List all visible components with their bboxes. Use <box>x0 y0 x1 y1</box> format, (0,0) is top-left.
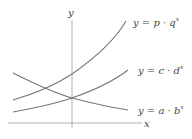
label-c-d: y = c · dx <box>137 63 184 76</box>
exponential-chart: y x y = p · qx y = c · dx y = a · bx <box>0 0 192 139</box>
label-p-q: y = p · qx <box>132 15 180 28</box>
y-axis-label: y <box>67 7 74 18</box>
curve-c-d <box>13 70 128 112</box>
curve-p-q <box>13 21 126 100</box>
curve-a-b <box>13 73 128 110</box>
x-axis-label: x <box>144 118 150 129</box>
label-a-b: y = a · bx <box>137 103 184 116</box>
